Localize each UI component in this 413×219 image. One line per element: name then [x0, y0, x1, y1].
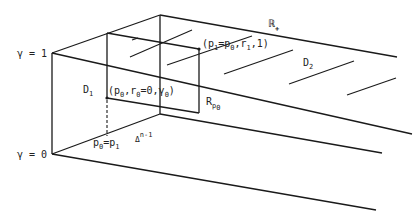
r-p0-label: Rp0 — [206, 96, 220, 112]
top-near-edge — [52, 53, 412, 134]
hatch-line-1 — [130, 30, 192, 57]
slice-bottom-edge — [107, 98, 199, 113]
base-near-edge — [52, 154, 376, 210]
simplex-label: Δn-1 — [135, 131, 152, 144]
base-point-label: p0=p1 — [93, 137, 120, 151]
point-low-label: (p0,r0=0,γ0) — [108, 85, 175, 99]
gamma-one-label: γ = 1 — [17, 48, 47, 59]
top-back-edge — [52, 15, 160, 53]
prism-diagram: γ = 1 γ = 0 D1 (p0,r0=0,γ0) (p1=p0,r1,1)… — [0, 0, 413, 219]
point-high-dot — [197, 47, 200, 50]
d2-label: D2 — [303, 57, 313, 71]
d1-label: D1 — [83, 84, 93, 98]
real-plus-label: ℝ+ — [269, 18, 279, 33]
point-low-dot — [105, 96, 108, 99]
top-far-edge — [160, 15, 397, 57]
hatch-line-5 — [347, 78, 396, 95]
hatch-line-3 — [224, 50, 293, 74]
gamma-zero-label: γ = 0 — [17, 149, 47, 160]
hatch-line-4 — [289, 61, 354, 84]
labels: γ = 1 γ = 0 D1 (p0,r0=0,γ0) (p1=p0,r1,1)… — [17, 18, 313, 160]
